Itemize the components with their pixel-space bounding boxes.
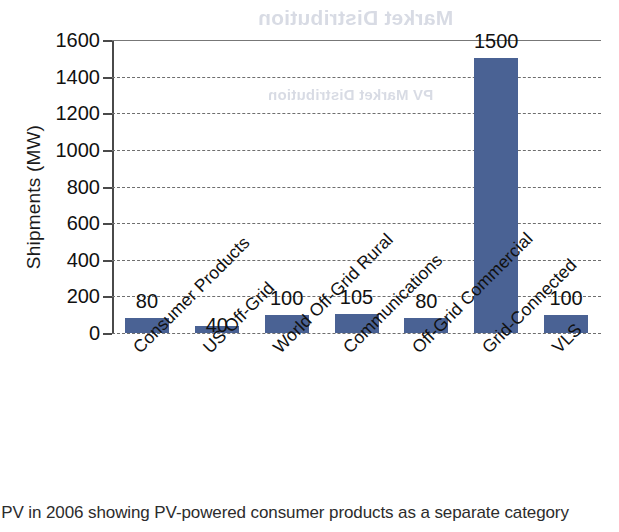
y-tick-mark bbox=[103, 260, 112, 262]
gridline bbox=[112, 187, 601, 188]
y-tick-label: 1000 bbox=[8, 138, 100, 161]
gridline bbox=[112, 113, 601, 114]
y-tick-label: 400 bbox=[8, 248, 100, 271]
y-tick-mark bbox=[103, 150, 112, 152]
y-tick-mark bbox=[103, 333, 112, 335]
y-tick-label: 1600 bbox=[8, 29, 100, 52]
y-tick-label: 1200 bbox=[8, 102, 100, 125]
bar-value-label: 80 bbox=[136, 290, 158, 313]
figure-caption: f PV in 2006 showing PV-powered consumer… bbox=[0, 503, 619, 523]
bar-value-label: 80 bbox=[415, 290, 437, 313]
figure: Market Distribution PV Market Distributi… bbox=[0, 0, 619, 532]
y-tick-mark bbox=[103, 77, 112, 79]
y-tick-mark bbox=[103, 113, 112, 115]
y-tick-mark bbox=[103, 187, 112, 189]
gridline bbox=[112, 150, 601, 151]
y-tick-mark bbox=[103, 223, 112, 225]
bar-chart: Shipments (MW) 1600140012001000800600400… bbox=[0, 0, 619, 500]
y-tick-mark bbox=[103, 296, 112, 298]
bar-value-label: 1500 bbox=[474, 30, 519, 53]
gridline bbox=[112, 40, 601, 41]
y-tick-mark bbox=[103, 40, 112, 42]
gridline bbox=[112, 223, 601, 224]
y-tick-label: 600 bbox=[8, 212, 100, 235]
y-tick-label: 200 bbox=[8, 285, 100, 308]
figure-caption-text: f PV in 2006 showing PV-powered consumer… bbox=[0, 503, 569, 522]
y-tick-label: 800 bbox=[8, 175, 100, 198]
gridline bbox=[112, 77, 601, 78]
y-tick-label: 0 bbox=[8, 322, 100, 345]
y-tick-label: 1400 bbox=[8, 65, 100, 88]
